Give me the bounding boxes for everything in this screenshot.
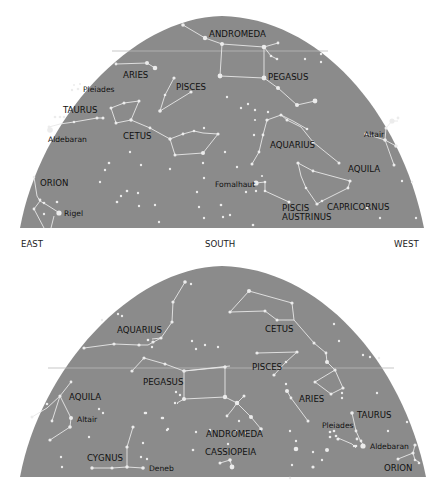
top-label-austrinus: AUSTRINUS — [282, 212, 332, 222]
bottom-label-pleiades: Pleiades — [322, 421, 354, 430]
top-label-pegasus: PEGASUS — [268, 72, 308, 82]
top-label-aquarius: AQUARIUS — [270, 140, 315, 150]
top-label-south: SOUTH — [205, 239, 235, 249]
bottom-label-cetus: CETUS — [265, 324, 293, 334]
top-label-orion: ORION — [40, 178, 68, 188]
bottom-label-aquila: AQUILA — [69, 392, 101, 402]
bottom-label-pisces: PISCES — [252, 362, 282, 372]
bottom-label-altair: Altair — [77, 415, 98, 424]
bottom-label-aries: ARIES — [299, 394, 324, 404]
bottom-label-aldebaran: Aldebaran — [370, 442, 409, 451]
top-sky-chart: ANDROMEDA PEGASUS ARIES Pleiades PISCES … — [20, 16, 424, 249]
bottom-label-deneb: Deneb — [149, 464, 174, 473]
top-pleiades-stars — [71, 83, 81, 91]
top-label-pleiades: Pleiades — [83, 85, 115, 94]
bottom-label-cygnus: CYGNUS — [87, 453, 123, 463]
top-label-aquila: AQUILA — [348, 164, 380, 174]
top-label-andromeda: ANDROMEDA — [209, 29, 266, 39]
top-label-capricornus: CAPRICORNUS — [327, 202, 389, 212]
top-label-taurus: TAURUS — [62, 105, 97, 115]
top-label-cetus: CETUS — [123, 131, 151, 141]
bottom-label-taurus: TAURUS — [356, 410, 391, 420]
bottom-label-aquarius: AQUARIUS — [117, 325, 162, 335]
top-label-altair: Altair — [364, 130, 385, 139]
bottom-sky-chart: AQUARIUS CETUS PISCES — [20, 266, 426, 479]
top-label-west: WEST — [394, 239, 419, 249]
bottom-label-cassiopeia: CASSIOPEIA — [205, 447, 256, 457]
top-label-aries: ARIES — [123, 70, 148, 80]
top-label-pisces: PISCES — [176, 82, 206, 92]
bottom-label-andromeda: ANDROMEDA — [206, 429, 263, 439]
top-label-fomalhaut: Fomalhaut — [215, 180, 255, 189]
bottom-label-orion: ORION — [384, 463, 412, 473]
star-charts: ANDROMEDA PEGASUS ARIES Pleiades PISCES … — [0, 0, 436, 489]
top-label-east: EAST — [21, 239, 44, 249]
top-label-aldebaran: Aldebaran — [48, 135, 87, 144]
top-label-rigel: Rigel — [64, 209, 83, 218]
bottom-label-pegasus: PEGASUS — [143, 377, 183, 387]
